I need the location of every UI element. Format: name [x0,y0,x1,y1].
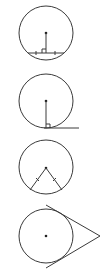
circle-theorems-diagram [0,0,108,280]
right-angle-marker-1 [42,49,46,53]
segment-right [46,168,62,190]
figure-two-tangents [19,205,100,268]
figure-radius-tangent [19,74,79,128]
center-point-4 [45,235,48,238]
figure-equal-segments [19,140,73,194]
figure-perpendicular-chord [19,6,73,60]
segment-left [30,168,46,190]
